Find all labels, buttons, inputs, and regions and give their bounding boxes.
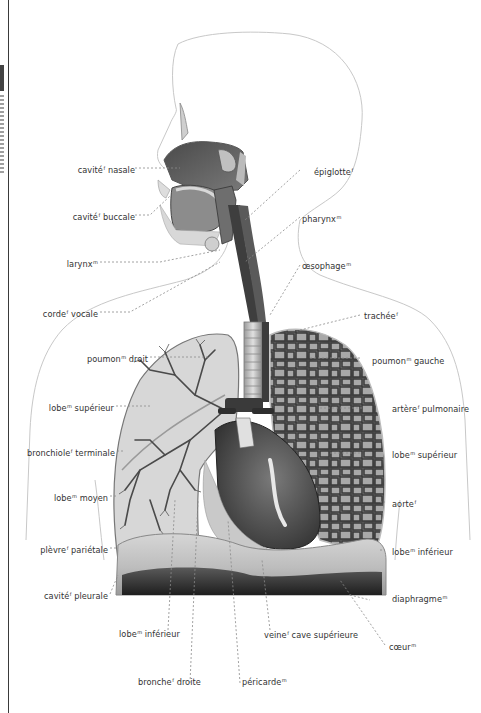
label-pulmonary-artery: artèref pulmonaire — [392, 402, 469, 414]
label-middle-lobe: lobem moyen — [30, 491, 108, 503]
label-diaphragm: diaphragmem — [392, 592, 447, 604]
label-pericardium: péricardem — [242, 675, 287, 687]
label-larynx: larynxm — [40, 257, 98, 269]
label-upper-lobe-right: lobem supérieur — [20, 401, 114, 413]
label-terminal-bronchiole: bronchiolef terminale — [10, 446, 115, 458]
diagram-page: cavitéf nasale cavitéf buccale larynxm c… — [0, 0, 481, 713]
label-trachea: trachéef — [364, 309, 398, 321]
label-pleural-cavity: cavitéf pleurale — [20, 589, 108, 601]
label-superior-vena-cava: veinef cave supérieure — [264, 628, 358, 640]
label-nasal-cavity: cavitéf nasale — [40, 163, 135, 175]
label-right-bronchus: bronchef droite — [138, 675, 201, 687]
label-heart: cœurm — [389, 640, 416, 652]
label-pharynx: pharynxm — [302, 212, 341, 224]
label-right-lung: poumonm droit — [40, 352, 148, 364]
label-upper-lobe-left: lobem supérieur — [392, 448, 457, 460]
label-lower-lobe-right: lobem inférieur — [119, 627, 180, 639]
label-oral-cavity: cavitéf buccale — [40, 210, 135, 222]
label-left-lung: poumonm gauche — [372, 354, 444, 366]
label-parietal-pleura: plèvref pariétale — [20, 543, 108, 555]
label-esophagus: œsophagem — [302, 259, 351, 271]
label-aorta: aortef — [392, 497, 416, 509]
label-vocal-cord: cordef vocale — [20, 307, 98, 319]
label-epiglottis: épiglottef — [314, 165, 353, 177]
label-lower-lobe-left: lobem inférieur — [392, 545, 453, 557]
